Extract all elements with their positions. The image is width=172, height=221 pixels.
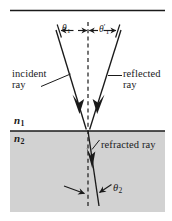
incident-ray-arrowhead bbox=[73, 95, 85, 115]
incident-ray-line bbox=[56, 30, 86, 130]
incident-ray-label-line1: incident bbox=[12, 68, 47, 79]
theta2-label: θ2 bbox=[113, 182, 122, 195]
reflected-ray-label: reflected ray bbox=[123, 68, 161, 90]
incident-ray-label-line2: ray bbox=[12, 79, 47, 90]
reflected-ray-label-line1: reflected bbox=[123, 68, 161, 79]
n1-label: n1 bbox=[14, 115, 25, 128]
refracted-ray-label: refracted ray bbox=[101, 139, 156, 150]
reflected-ray-label-line2: ray bbox=[123, 79, 161, 90]
theta1-label: θ1 bbox=[62, 24, 71, 34]
optics-refraction-figure: θ1 θ′1 θ2 incident ray reflected ray ref… bbox=[0, 0, 172, 221]
incident-ray-label: incident ray bbox=[12, 68, 47, 90]
figure-canvas bbox=[0, 0, 172, 221]
theta1-prime-label: θ′1 bbox=[99, 24, 109, 35]
n2-label: n2 bbox=[14, 133, 25, 146]
reflected-ray-line bbox=[90, 30, 121, 130]
reflected-ray-arrowhead bbox=[93, 95, 105, 115]
